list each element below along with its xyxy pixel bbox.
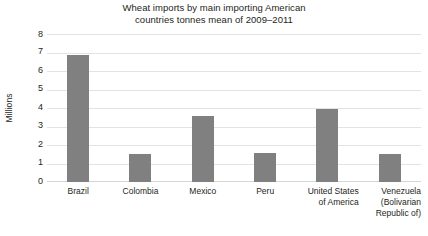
x-label-brazil: Brazil — [47, 186, 109, 197]
bar-venezuela[interactable] — [379, 154, 401, 182]
x-axis-labels: Brazil Colombia Mexico Peru United State… — [47, 186, 421, 236]
y-axis-ticks: 8 7 6 5 4 3 2 1 0 — [13, 34, 43, 182]
bar-series — [47, 34, 421, 182]
bar-slot-united-states-of-america — [296, 34, 358, 182]
bar-brazil[interactable] — [67, 55, 89, 182]
chart-title: Wheat imports by main importing American… — [0, 2, 428, 25]
chart-title-line-1: Wheat imports by main importing American — [0, 2, 428, 14]
y-tick-2: 2 — [13, 140, 43, 149]
bar-slot-brazil — [47, 34, 109, 182]
y-tick-6: 6 — [13, 66, 43, 75]
bar-peru[interactable] — [254, 153, 276, 182]
x-label-united-states-of-america: United States of America — [287, 186, 358, 208]
y-tick-8: 8 — [13, 30, 43, 39]
bar-colombia[interactable] — [129, 154, 151, 182]
x-label-colombia: Colombia — [109, 186, 171, 197]
bar-mexico[interactable] — [192, 116, 214, 182]
y-tick-3: 3 — [13, 121, 43, 130]
bar-slot-peru — [234, 34, 296, 182]
y-tick-1: 1 — [13, 158, 43, 167]
y-tick-7: 7 — [13, 47, 43, 56]
bar-slot-colombia — [109, 34, 171, 182]
chart-title-line-2: countries tonnes mean of 2009–2011 — [0, 14, 428, 26]
plot-area — [47, 34, 421, 182]
y-tick-0: 0 — [13, 177, 43, 186]
y-tick-5: 5 — [13, 84, 43, 93]
bar-united-states-of-america[interactable] — [316, 109, 338, 183]
y-tick-4: 4 — [13, 103, 43, 112]
bar-slot-venezuela — [359, 34, 421, 182]
x-label-venezuela: Venezuela (Bolivarian Republic of) — [353, 186, 421, 219]
bar-slot-mexico — [172, 34, 234, 182]
x-label-mexico: Mexico — [172, 186, 234, 197]
bar-chart: Wheat imports by main importing American… — [0, 0, 428, 236]
